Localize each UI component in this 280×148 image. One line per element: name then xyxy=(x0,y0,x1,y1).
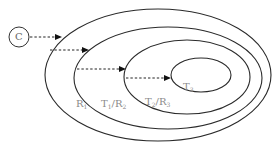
arrow-t1r2-to-t2r3 xyxy=(77,66,126,72)
label-main: R xyxy=(76,98,84,109)
label-subscript: 3 xyxy=(190,86,194,93)
arrow-t2r3-to-t3 xyxy=(126,75,171,81)
label-subscript: 2 xyxy=(122,103,126,110)
arrowhead-icon xyxy=(164,75,171,81)
label-subscript: 1 xyxy=(84,103,88,110)
label-main: T xyxy=(101,98,108,109)
nested-regions-diagram: C R1 T1/R2 T2/R3 T3 xyxy=(0,0,280,148)
diagram-svg xyxy=(0,0,280,148)
region-r1-label: R1 xyxy=(76,99,87,109)
region-t2-r3-label: T2/R3 xyxy=(145,97,170,107)
region-t3-ellipse xyxy=(171,58,231,92)
arrow-r1-to-t1r2 xyxy=(50,47,89,53)
arrowhead-icon xyxy=(82,47,89,53)
region-r1-ellipse xyxy=(45,9,271,141)
label-main: T xyxy=(145,96,152,107)
label-subscript: 3 xyxy=(166,101,170,108)
source-node-label: C xyxy=(15,32,23,42)
region-t3-label: T3 xyxy=(183,82,194,92)
arrow-c-to-r1 xyxy=(30,34,62,40)
region-t1-r2-label: T1/R2 xyxy=(101,99,126,109)
arrowhead-icon xyxy=(55,34,62,40)
label-main: T xyxy=(183,81,190,92)
